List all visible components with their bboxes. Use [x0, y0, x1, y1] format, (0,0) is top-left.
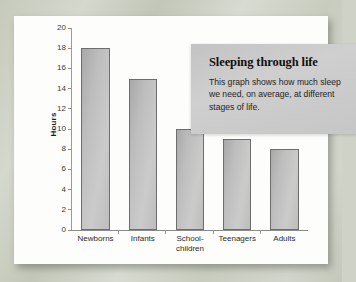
- bar-teenagers: [223, 139, 251, 230]
- x-tick-label: Infants: [119, 234, 166, 254]
- y-tick-label: 10: [57, 125, 68, 133]
- y-tick-label: 20: [57, 24, 68, 32]
- x-axis-line: [71, 230, 308, 231]
- bar-infants: [129, 79, 157, 231]
- x-tick-label: Adults: [261, 234, 308, 254]
- callout-title: Sleeping through life: [209, 56, 344, 70]
- sleep-bar-chart: Hours 02468101214161820 NewbornsInfantsS…: [14, 16, 328, 264]
- y-tick-label: 18: [57, 44, 68, 52]
- bar-newborns: [81, 48, 109, 230]
- y-tick-label: 12: [57, 105, 68, 113]
- x-tick-label: Teenagers: [214, 234, 261, 254]
- y-tick-label: 16: [57, 64, 68, 72]
- bar-slot: [119, 28, 166, 230]
- x-axis-labels: NewbornsInfantsSchool-childrenTeenagersA…: [72, 234, 308, 254]
- callout-body: This graph shows how much sleep we need,…: [209, 76, 344, 114]
- x-tick-label: School-children: [166, 234, 213, 254]
- bar-slot: [72, 28, 119, 230]
- bar-school-children: [176, 129, 204, 230]
- caption-callout: Sleeping through life This graph shows h…: [191, 44, 356, 134]
- y-tick-label: 14: [57, 85, 68, 93]
- bar-adults: [270, 149, 298, 230]
- x-tick-label: Newborns: [72, 234, 119, 254]
- y-axis-ticks: 02468101214161820: [45, 28, 71, 230]
